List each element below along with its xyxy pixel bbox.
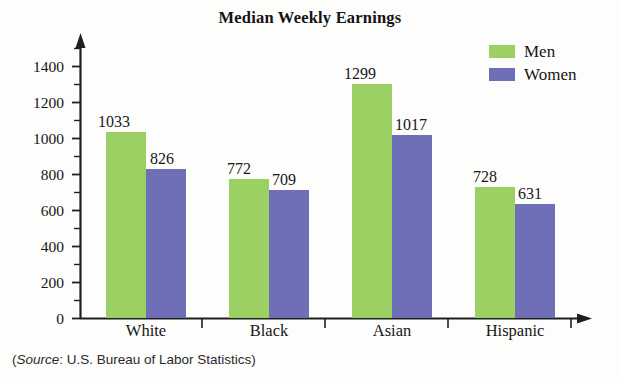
source-keyword: Source [17, 352, 60, 367]
bar-asian-women[interactable] [392, 135, 432, 318]
category-label-black: Black [219, 322, 319, 340]
source-body: : U.S. Bureau of Labor Statistics) [59, 352, 256, 367]
bars-layer [0, 0, 620, 318]
chart-page: Median Weekly Earnings Men Women [0, 0, 620, 377]
bar-hispanic-women[interactable] [515, 204, 555, 318]
value-label-hispanic-men: 728 [473, 169, 497, 185]
bar-hispanic-men[interactable] [475, 187, 515, 318]
value-label-black-men: 772 [227, 161, 251, 177]
value-label-asian-men: 1299 [344, 66, 376, 82]
category-label-white: White [96, 322, 196, 340]
category-label-asian: Asian [342, 322, 442, 340]
bar-asian-men[interactable] [352, 84, 392, 318]
bar-black-men[interactable] [229, 179, 269, 318]
source-note: (Source: U.S. Bureau of Labor Statistics… [12, 352, 256, 367]
value-label-asian-women: 1017 [395, 117, 427, 133]
plot-area: 1400 1200 1000 800 600 400 200 0 1033 82… [0, 0, 620, 377]
bar-white-men[interactable] [106, 132, 146, 318]
category-label-hispanic: Hispanic [462, 322, 568, 340]
value-label-white-women: 826 [150, 151, 174, 167]
value-label-black-women: 709 [272, 172, 296, 188]
value-label-white-men: 1033 [98, 114, 130, 130]
value-label-hispanic-women: 631 [518, 186, 542, 202]
bar-black-women[interactable] [269, 190, 309, 318]
bar-white-women[interactable] [146, 169, 186, 318]
